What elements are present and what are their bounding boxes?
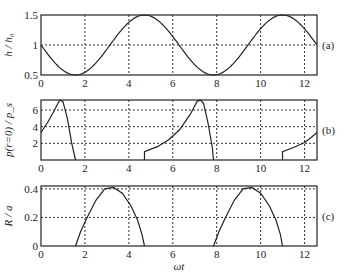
y-tick-label: 0	[33, 240, 39, 252]
panel-tag: (b)	[322, 124, 335, 137]
x-tick-label: 6	[170, 162, 176, 174]
x-tick-label: 4	[126, 77, 132, 89]
series-line-segment-1	[41, 100, 76, 160]
y-tick-label: 0.4	[24, 183, 38, 195]
panel-tag: (c)	[322, 210, 335, 223]
x-tick-label: 12	[299, 248, 310, 260]
series-line-segment-2	[144, 100, 213, 160]
y-tick-label: 0.5	[24, 69, 38, 81]
x-tick-label: 2	[82, 77, 88, 89]
series-line-segment-3	[283, 133, 317, 161]
y-tick-label: 1	[33, 39, 39, 51]
x-tick-label: 0	[38, 162, 44, 174]
x-tick-label: 8	[214, 77, 220, 89]
y-axis-label: h / h₀	[2, 33, 14, 57]
plot-frame	[41, 186, 317, 246]
x-tick-label: 6	[170, 248, 176, 260]
y-tick-label: 1.5	[24, 9, 38, 21]
y-tick-label: 4	[33, 121, 39, 133]
x-tick-label: 10	[255, 248, 267, 260]
x-tick-label: 12	[299, 162, 310, 174]
x-tick-label: 8	[214, 248, 220, 260]
panel-tag: (a)	[322, 39, 335, 52]
chart-figure: 0246810120.511.5h / h₀(a)024681012246p(r…	[0, 0, 346, 278]
x-tick-label: 6	[170, 77, 176, 89]
x-tick-label: 4	[126, 162, 132, 174]
x-tick-label: 10	[255, 77, 267, 89]
y-axis-label: p(r=0) / p_s	[2, 103, 15, 158]
x-tick-label: 2	[82, 162, 88, 174]
x-tick-label: 0	[38, 77, 44, 89]
x-tick-label: 10	[255, 162, 267, 174]
series-line-segment-2	[214, 187, 283, 246]
x-tick-label: 0	[38, 248, 44, 260]
y-axis-label: R / a	[2, 205, 14, 227]
x-tick-label: 2	[82, 248, 88, 260]
y-tick-label: 6	[33, 104, 39, 116]
x-tick-label: 8	[214, 162, 220, 174]
series-line-segment-1	[76, 187, 145, 246]
x-tick-label: 12	[299, 77, 310, 89]
x-axis-label: ωt	[174, 260, 186, 272]
y-tick-label: 0.2	[24, 211, 38, 223]
x-tick-label: 4	[126, 248, 132, 260]
y-tick-label: 2	[33, 137, 39, 149]
